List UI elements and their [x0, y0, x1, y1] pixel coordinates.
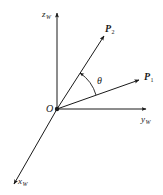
label-z-axis: zW [42, 10, 51, 20]
coordinate-diagram [0, 0, 163, 195]
label-x-axis: xW [18, 177, 28, 187]
label-p1: P1 [144, 72, 154, 83]
label-p2: P2 [105, 24, 115, 35]
origin-point [55, 107, 59, 111]
label-origin: O [46, 104, 53, 114]
x-axis [14, 109, 57, 184]
label-theta: θ [97, 76, 102, 86]
vector-p2 [57, 36, 104, 109]
angle-arc [80, 73, 96, 95]
label-y-axis: yW [141, 115, 151, 125]
